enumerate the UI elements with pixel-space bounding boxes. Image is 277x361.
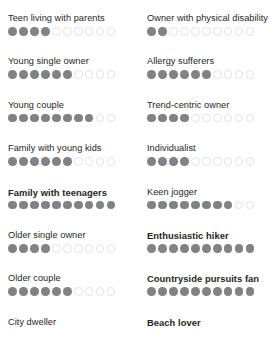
rating-dot-empty xyxy=(235,114,244,123)
rating-dot-filled xyxy=(41,287,50,296)
rating-dot-empty xyxy=(107,114,116,123)
rating-dot-filled xyxy=(147,70,156,79)
rating-dot-filled xyxy=(158,27,167,36)
rating-dot-empty xyxy=(224,114,233,123)
rating-dot-filled xyxy=(41,114,50,123)
rating-dot-filled xyxy=(246,244,255,253)
rating-dot-scale xyxy=(8,201,115,210)
rating-dot-filled xyxy=(158,287,167,296)
rating-dot-filled xyxy=(74,114,83,123)
rating-dot-filled xyxy=(147,157,156,166)
chart-column-right: Owner with physical disabilityAllergy su… xyxy=(147,0,277,347)
rating-dot-empty xyxy=(246,201,255,210)
rating-row: Older single owner xyxy=(8,217,138,260)
rating-dot-filled xyxy=(202,201,211,210)
rating-dot-filled xyxy=(30,70,39,79)
rating-dot-empty xyxy=(191,157,200,166)
rating-dot-empty xyxy=(224,157,233,166)
rating-dot-filled xyxy=(8,114,17,123)
rating-dot-scale xyxy=(8,287,115,296)
rating-dot-empty xyxy=(213,157,222,166)
rating-dot-filled xyxy=(30,114,39,123)
rating-dot-empty xyxy=(246,157,255,166)
rating-row-label: City dweller xyxy=(8,317,56,328)
rating-dot-empty xyxy=(107,244,116,253)
rating-dot-empty xyxy=(63,27,72,36)
rating-dot-filled xyxy=(41,157,50,166)
rating-row-label: Young single owner xyxy=(8,56,89,67)
rating-dot-empty xyxy=(85,27,94,36)
rating-dot-filled xyxy=(30,27,39,36)
rating-row-label: Family with teenagers xyxy=(8,187,107,198)
rating-dot-scale xyxy=(147,287,254,296)
rating-dot-scale xyxy=(8,114,115,123)
rating-dot-filled xyxy=(147,244,156,253)
rating-dot-filled xyxy=(63,287,72,296)
rating-dot-filled xyxy=(169,244,178,253)
rating-dot-empty xyxy=(202,157,211,166)
rating-dot-empty xyxy=(224,70,233,79)
rating-dot-filled xyxy=(180,201,189,210)
rating-dot-scale xyxy=(8,27,115,36)
rating-dot-empty xyxy=(213,27,222,36)
rating-dot-scale xyxy=(8,244,115,253)
rating-dot-filled xyxy=(191,287,200,296)
rating-dot-scale xyxy=(147,201,254,210)
rating-row-label: Trend-centric owner xyxy=(147,100,229,111)
rating-dot-filled xyxy=(191,201,200,210)
rating-dot-filled xyxy=(19,244,28,253)
rating-dot-empty xyxy=(52,27,61,36)
rating-dot-filled xyxy=(74,201,83,210)
rating-dot-filled xyxy=(41,244,50,253)
rating-dot-filled xyxy=(147,201,156,210)
rating-dot-filled xyxy=(41,201,50,210)
rating-dot-empty xyxy=(107,27,116,36)
rating-dot-empty xyxy=(246,114,255,123)
rating-dot-filled xyxy=(191,244,200,253)
rating-dot-filled xyxy=(169,287,178,296)
rating-dot-filled xyxy=(191,70,200,79)
rating-dot-filled xyxy=(19,70,28,79)
rating-row: Enthusiastic hiker xyxy=(147,217,277,260)
rating-dot-filled xyxy=(85,114,94,123)
rating-dot-filled xyxy=(19,157,28,166)
rating-dot-empty xyxy=(96,244,105,253)
rating-dot-filled xyxy=(63,70,72,79)
rating-dot-empty xyxy=(63,244,72,253)
rating-dot-empty xyxy=(74,70,83,79)
rating-dot-filled xyxy=(158,114,167,123)
rating-dot-filled xyxy=(107,201,116,210)
rating-row: Individualist xyxy=(147,130,277,173)
rating-dot-filled xyxy=(8,201,17,210)
rating-dot-filled xyxy=(169,201,178,210)
rating-row-label: Family with young kids xyxy=(8,143,102,154)
rating-dot-scale xyxy=(147,114,254,123)
rating-row: Beach lover xyxy=(147,304,277,347)
rating-dot-scale xyxy=(147,70,254,79)
rating-dot-empty xyxy=(191,114,200,123)
rating-dot-empty xyxy=(235,27,244,36)
rating-dot-empty xyxy=(107,157,116,166)
rating-dot-filled xyxy=(169,114,178,123)
rating-row: Owner with physical disability xyxy=(147,0,277,43)
rating-dot-filled xyxy=(158,157,167,166)
rating-dot-filled xyxy=(213,287,222,296)
rating-row: Family with teenagers xyxy=(8,174,138,217)
rating-dot-filled xyxy=(158,201,167,210)
rating-row: Trend-centric owner xyxy=(147,87,277,130)
rating-row-label: Keen jogger xyxy=(147,187,197,198)
rating-row: Family with young kids xyxy=(8,130,138,173)
rating-dot-filled xyxy=(96,201,105,210)
rating-row: Allergy sufferers xyxy=(147,43,277,86)
rating-dot-filled xyxy=(63,114,72,123)
rating-dot-filled xyxy=(8,157,17,166)
rating-dot-empty xyxy=(213,70,222,79)
rating-dot-empty xyxy=(202,27,211,36)
rating-row-label: Teen living with parents xyxy=(8,13,105,24)
rating-dot-empty xyxy=(74,244,83,253)
rating-dot-empty xyxy=(85,157,94,166)
rating-dot-filled xyxy=(235,287,244,296)
rating-dot-filled xyxy=(180,287,189,296)
rating-dot-filled xyxy=(246,287,255,296)
rating-dot-filled xyxy=(30,157,39,166)
